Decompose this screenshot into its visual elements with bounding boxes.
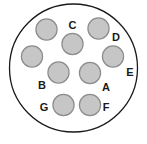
- pin-top-right[interactable]: [88, 18, 109, 39]
- pin-label-c: C: [69, 19, 77, 31]
- pin-left[interactable]: [21, 46, 42, 67]
- pin-label-e: E: [126, 66, 133, 78]
- pin-label-g: G: [40, 101, 49, 113]
- pin-top-left[interactable]: [36, 19, 57, 40]
- pin-label-b: B: [38, 79, 46, 91]
- pin-bottom-left[interactable]: [53, 94, 74, 115]
- pin-label-a: A: [102, 81, 110, 93]
- pin-bottom-right[interactable]: [79, 94, 100, 115]
- pin-center-left[interactable]: [48, 62, 69, 83]
- pin-label-f: F: [103, 101, 110, 113]
- connector-pinout-diagram: C D E B A G F: [0, 0, 147, 144]
- pin-label-d: D: [112, 31, 120, 43]
- pin-right[interactable]: [102, 46, 123, 67]
- pin-upper-center[interactable]: [62, 33, 83, 54]
- connector-diagram-canvas: C D E B A G F: [0, 0, 147, 144]
- pin-center-right[interactable]: [79, 62, 100, 83]
